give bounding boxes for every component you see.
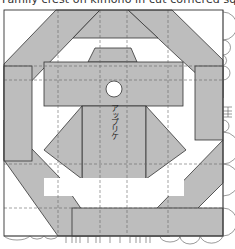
strip-right <box>195 66 223 140</box>
crest-circle <box>106 81 122 97</box>
strip-bottom <box>72 208 223 236</box>
kimono-collar <box>88 48 137 62</box>
strip-left <box>4 66 32 161</box>
applique-label: アップリケ <box>108 104 119 139</box>
strip-lower-center <box>44 178 184 196</box>
triangle-right <box>146 106 186 179</box>
